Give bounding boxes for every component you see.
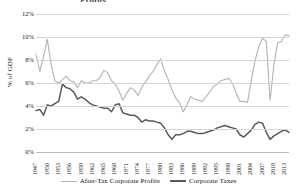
legend-label: After-Tax Corporate Profits (80, 177, 160, 185)
series-line (36, 84, 289, 139)
gridline (36, 106, 289, 107)
series-line (36, 35, 289, 112)
gridline (36, 129, 289, 130)
x-tick-label: 1956 (66, 163, 72, 175)
x-tick-label: 1953 (55, 163, 61, 175)
x-tick-label: 2010 (270, 163, 276, 175)
x-tick-label: 1974 (134, 163, 140, 175)
gridline (36, 14, 289, 15)
x-tick-label: 1959 (78, 163, 84, 175)
x-tick-label: 1980 (157, 163, 163, 175)
x-tick-label: 2001 (236, 163, 242, 175)
x-tick-label: 1965 (100, 163, 106, 175)
x-tick-label: 1968 (111, 163, 117, 175)
legend-item[interactable]: After-Tax Corporate Profits (61, 177, 160, 185)
x-axis: 1947195019531956195919621965196819711974… (36, 153, 289, 175)
gridline (36, 37, 289, 38)
legend-swatch-icon (170, 180, 186, 182)
y-tick-label: 4% (12, 103, 34, 110)
x-tick-label: 1950 (44, 163, 50, 175)
x-tick-label: 1947 (32, 163, 38, 175)
x-tick-label: 2007 (259, 163, 265, 175)
y-tick-label: 12% (12, 11, 34, 18)
plot-area (36, 14, 289, 152)
x-tick-label: 1992 (202, 163, 208, 175)
chart-container: Profits % of GDP 0%2%4%6%8%10%12% 194719… (0, 0, 297, 194)
x-tick-label: 1962 (89, 163, 95, 175)
y-tick-label: 2% (12, 126, 34, 133)
chart-title-fragment: Profits (58, 0, 128, 2)
x-tick-label: 1989 (191, 163, 197, 175)
x-tick-label: 1983 (168, 163, 174, 175)
legend-item[interactable]: Corporate Taxes (170, 177, 236, 185)
y-tick-label: 8% (12, 57, 34, 64)
y-axis-title: % of GDP (6, 44, 14, 100)
y-tick-label: 6% (12, 80, 34, 87)
y-tick-label: 10% (12, 34, 34, 41)
x-tick-label: 1977 (145, 163, 151, 175)
x-tick-label: 1986 (179, 163, 185, 175)
y-axis: % of GDP 0%2%4%6%8%10%12% (0, 0, 34, 194)
gridline (36, 83, 289, 84)
x-tick-label: 1995 (213, 163, 219, 175)
legend-swatch-icon (61, 181, 77, 182)
legend-label: Corporate Taxes (189, 177, 236, 185)
x-tick-label: 2013 (281, 163, 287, 175)
x-tick-label: 1998 (225, 163, 231, 175)
x-tick-label: 2004 (247, 163, 253, 175)
chart-legend: After-Tax Corporate ProfitsCorporate Tax… (0, 177, 297, 185)
gridline (36, 60, 289, 61)
x-tick-label: 1971 (123, 163, 129, 175)
y-tick-label: 0% (12, 149, 34, 156)
